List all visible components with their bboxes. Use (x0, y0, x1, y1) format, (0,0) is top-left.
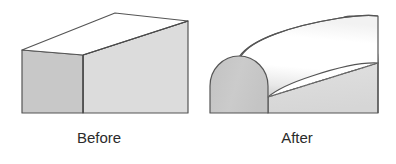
caption-after: After (198, 129, 396, 147)
after-end-cap (210, 56, 268, 113)
before-shape (22, 13, 188, 113)
before-after-figure: Before After (0, 0, 396, 164)
caption-before: Before (0, 129, 198, 147)
before-left-face (22, 50, 83, 113)
after-shape (210, 16, 378, 113)
